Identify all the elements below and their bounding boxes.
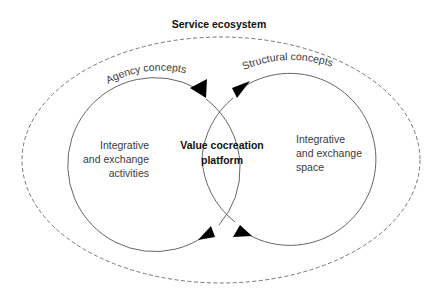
arrow-bottom-right-icon xyxy=(233,225,252,237)
right-circle-line-2: and exchange xyxy=(296,147,362,159)
right-circle-line-3: space xyxy=(296,161,324,173)
diagram-title: Service ecosystem xyxy=(172,18,267,30)
service-ecosystem-diagram: Service ecosystem Agency concepts Struct… xyxy=(0,0,440,295)
arrow-bottom-left-icon xyxy=(198,226,215,240)
center-line-2: platform xyxy=(201,154,243,166)
left-circle-line-2: and exchange xyxy=(83,153,149,165)
structural-concepts-label: Structural concepts xyxy=(240,50,335,72)
left-circle-line-3: activities xyxy=(109,167,149,179)
arrow-top-right-icon xyxy=(232,81,250,98)
structural-circle xyxy=(245,73,376,245)
left-circle-line-1: Integrative xyxy=(100,139,149,151)
agency-concepts-label: Agency concepts xyxy=(104,61,188,86)
arrow-top-left-icon xyxy=(190,79,207,98)
right-circle-line-1: Integrative xyxy=(296,133,345,145)
center-line-1: Value cocreation xyxy=(180,139,263,151)
